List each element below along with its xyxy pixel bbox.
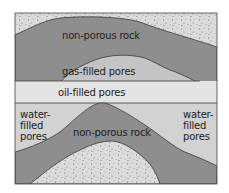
label-water-right-2: filled	[183, 120, 206, 131]
label-top-rock: non-porous rock	[62, 30, 140, 41]
label-gas: gas-filled pores	[62, 66, 135, 77]
label-bottom-rock: non-porous rock	[73, 127, 151, 138]
label-oil: oil-filled pores	[58, 87, 125, 98]
label-water-left-1: water-	[20, 109, 51, 120]
label-water-right-1: water-	[183, 109, 214, 120]
label-water-left-3: pores	[20, 131, 47, 142]
label-water-right-3: pores	[183, 131, 210, 142]
oil-trap-diagram: non-porous rock gas-filled pores oil-fil…	[0, 0, 229, 193]
label-water-left-2: filled	[20, 120, 43, 131]
